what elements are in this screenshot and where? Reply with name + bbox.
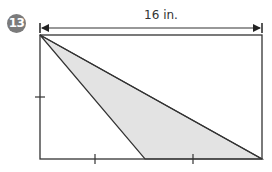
diagram-canvas — [0, 0, 272, 172]
arrowhead-left-icon — [41, 24, 49, 32]
arrowhead-right-icon — [253, 24, 261, 32]
geometry-figure: 13 16 in. — [0, 0, 272, 172]
dimension-arrow — [40, 23, 262, 33]
